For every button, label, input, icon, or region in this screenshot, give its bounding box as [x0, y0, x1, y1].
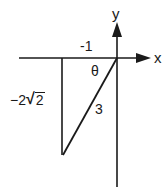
x-axis-arrow-icon — [136, 53, 151, 63]
y-axis-arrow-icon — [112, 22, 122, 37]
angle-theta-label: θ — [91, 64, 99, 78]
square-root-icon: √ — [26, 91, 35, 107]
y-axis-label: y — [112, 6, 120, 21]
x-axis-label: x — [154, 50, 162, 65]
horizontal-side-label: -1 — [80, 39, 92, 53]
hypotenuse-label: 3 — [95, 102, 103, 116]
hypotenuse — [63, 58, 117, 155]
vertical-side-label: −2 √ 2 — [10, 91, 45, 107]
vertical-side-radicand: 2 — [35, 92, 45, 107]
vertical-side-coefficient: −2 — [10, 93, 26, 107]
